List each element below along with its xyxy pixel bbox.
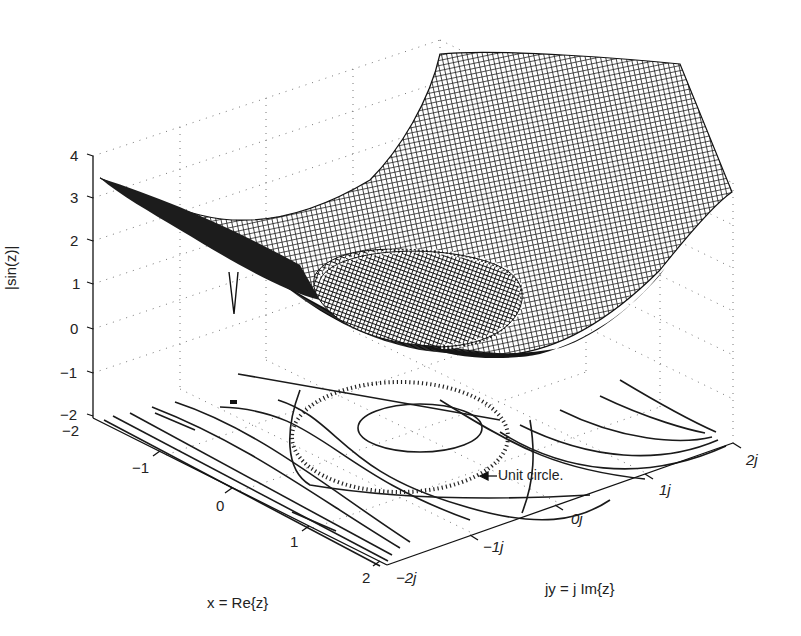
x-tick-0: 0 — [216, 497, 224, 514]
z-tick-0: 0 — [70, 320, 78, 337]
z-tick-neg1: −1 — [60, 364, 77, 381]
z-tick-3: 3 — [70, 189, 78, 206]
annotation-arrow — [480, 472, 497, 480]
y-tick-neg1j: −1j — [483, 538, 503, 555]
y-tick-2j: 2j — [746, 451, 758, 468]
z-tick-2: 2 — [70, 232, 78, 249]
unit-circle-annotation: Unit circle. — [498, 467, 563, 483]
y-tick-1j: 1j — [659, 481, 671, 498]
x-axis-label: x = Re{z} — [207, 594, 268, 611]
x-tick-2: 2 — [362, 569, 370, 586]
z-tick-1: 1 — [72, 275, 80, 292]
marker-dot — [230, 400, 237, 404]
z-axis-label: |sin(z)| — [2, 246, 19, 290]
surface-mesh — [100, 52, 732, 358]
y-axis-label: jy = j Im{z} — [545, 580, 615, 597]
x-tick-neg1: −1 — [132, 459, 149, 476]
x-tick-1: 1 — [290, 533, 298, 550]
unit-circle-base — [292, 382, 508, 492]
surface-plot — [0, 0, 801, 636]
y-tick-neg2j: −2j — [396, 569, 416, 586]
x-tick-neg2: −2 — [62, 422, 79, 439]
z-tick-4: 4 — [70, 147, 78, 164]
z-tick-neg2: −2 — [60, 406, 77, 423]
y-tick-0j: 0j — [571, 510, 583, 527]
